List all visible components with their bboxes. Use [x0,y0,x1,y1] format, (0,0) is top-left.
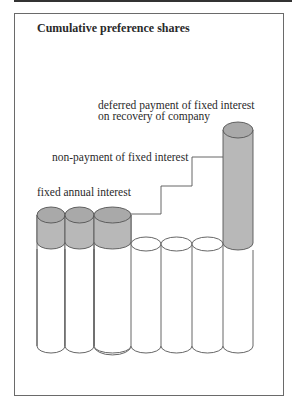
column-7-deferred-payment [223,122,253,250]
column-1-fixed-interest [37,207,65,249]
column-6-top [192,237,223,251]
column-5-top [161,237,192,251]
column-3-fixed-interest [94,207,131,249]
column-2-fixed-interest [65,207,94,249]
column-4-top [131,237,161,251]
step-connector-line [131,157,223,214]
cylinder-diagram [0,0,292,404]
